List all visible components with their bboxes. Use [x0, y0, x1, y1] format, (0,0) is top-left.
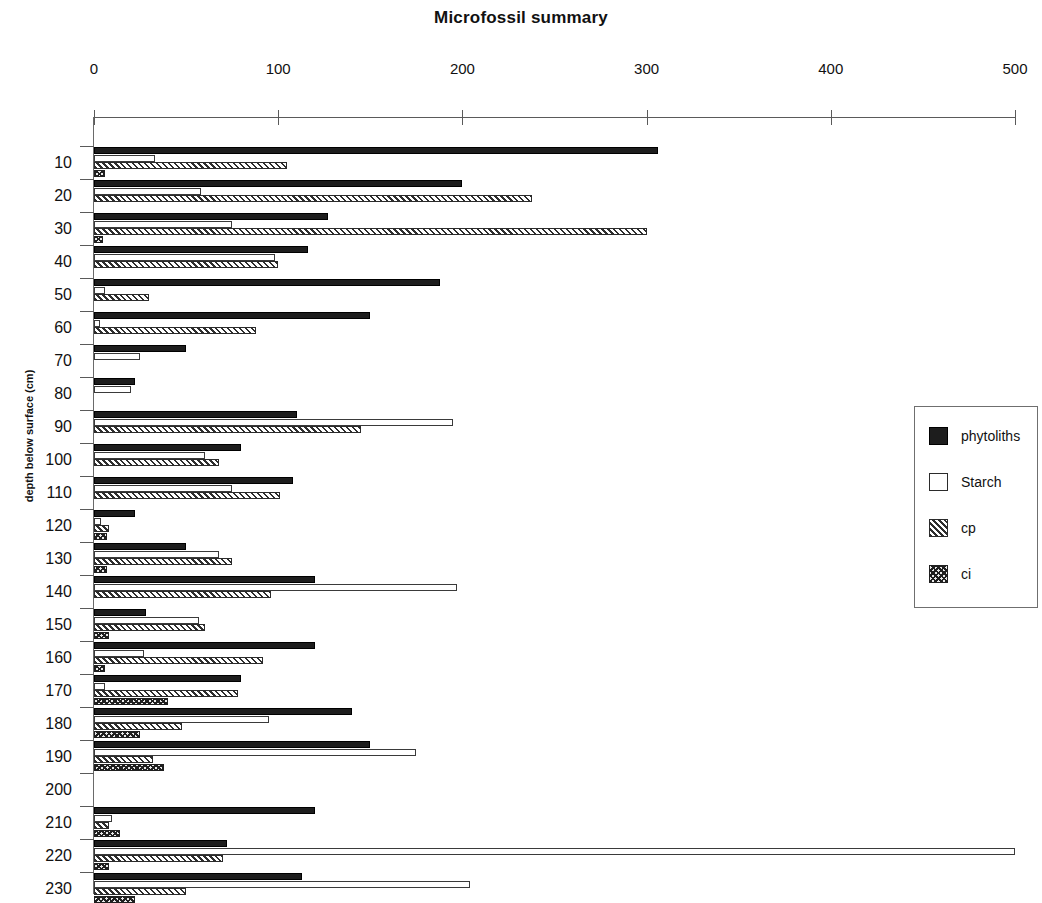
bar-ci [94, 533, 107, 540]
bar-cp [94, 558, 232, 565]
legend-swatch-icon [929, 427, 948, 445]
y-axis-tick-label: 10 [0, 154, 72, 172]
y-axis-tick [80, 575, 94, 576]
y-axis-tick-label: 100 [0, 451, 72, 469]
legend-item-label: Starch [961, 474, 1001, 490]
bar-starch [94, 518, 101, 525]
bar-starch [94, 551, 219, 558]
legend-item-starch[interactable]: Starch [929, 471, 1001, 493]
bar-starch [94, 287, 105, 294]
legend-item-label: cp [961, 520, 976, 536]
y-axis-tick-label: 120 [0, 517, 72, 535]
bar-phytoliths [94, 279, 440, 286]
y-axis-tick-label: 230 [0, 880, 72, 898]
y-axis-tick-label: 70 [0, 352, 72, 370]
legend-swatch-icon [929, 565, 948, 583]
bar-starch [94, 584, 457, 591]
y-axis-tick [80, 707, 94, 708]
y-axis-tick [80, 179, 94, 180]
bar-phytoliths [94, 345, 186, 352]
y-axis-tick-label: 220 [0, 847, 72, 865]
bar-ci [94, 170, 105, 177]
legend-item-phytoliths[interactable]: phytoliths [929, 425, 1020, 447]
y-axis-tick-label: 60 [0, 319, 72, 337]
y-axis-tick [80, 839, 94, 840]
bar-phytoliths [94, 873, 302, 880]
bar-starch [94, 848, 1015, 855]
y-axis-tick-label: 180 [0, 715, 72, 733]
x-axis-tick-label: 300 [634, 60, 659, 77]
bar-cp [94, 459, 219, 466]
bar-phytoliths [94, 510, 135, 517]
y-axis-tick [80, 542, 94, 543]
bar-cp [94, 888, 186, 895]
x-axis-line [94, 117, 1015, 118]
bar-starch [94, 617, 199, 624]
bar-phytoliths [94, 708, 352, 715]
bar-phytoliths [94, 246, 308, 253]
y-axis-tick [80, 146, 94, 147]
bar-phytoliths [94, 840, 227, 847]
bar-phytoliths [94, 378, 135, 385]
bar-cp [94, 195, 532, 202]
y-axis-tick-label: 90 [0, 418, 72, 436]
bar-phytoliths [94, 543, 186, 550]
x-axis-tick-label: 100 [266, 60, 291, 77]
bar-phytoliths [94, 807, 315, 814]
y-axis-tick [80, 674, 94, 675]
y-axis-tick [80, 509, 94, 510]
x-axis-tick [647, 110, 648, 125]
bar-ci [94, 632, 109, 639]
bar-ci [94, 896, 135, 903]
y-axis-tick-label: 200 [0, 781, 72, 799]
bar-ci [94, 236, 103, 243]
bar-cp [94, 492, 280, 499]
y-axis-tick [80, 311, 94, 312]
legend-item-ci[interactable]: ci [929, 563, 971, 585]
bar-phytoliths [94, 411, 297, 418]
bar-ci [94, 566, 107, 573]
bar-cp [94, 657, 263, 664]
bar-cp [94, 525, 109, 532]
y-axis-tick-label: 210 [0, 814, 72, 832]
legend-item-cp[interactable]: cp [929, 517, 976, 539]
bar-cp [94, 723, 182, 730]
legend-item-label: ci [961, 566, 971, 582]
y-axis-tick [80, 806, 94, 807]
y-axis-tick-label: 30 [0, 220, 72, 238]
y-axis-tick [80, 773, 94, 774]
y-axis-tick [80, 476, 94, 477]
x-axis-tick-label: 500 [1002, 60, 1027, 77]
bar-cp [94, 228, 647, 235]
bar-phytoliths [94, 180, 462, 187]
bar-phytoliths [94, 642, 315, 649]
bar-starch [94, 881, 470, 888]
y-axis-tick [80, 740, 94, 741]
y-axis-tick [80, 245, 94, 246]
bar-starch [94, 155, 155, 162]
legend-item-label: phytoliths [961, 428, 1020, 444]
bar-cp [94, 294, 149, 301]
x-axis-tick-label: 200 [450, 60, 475, 77]
y-axis-tick [80, 377, 94, 378]
bar-ci [94, 698, 168, 705]
bar-starch [94, 485, 232, 492]
x-axis-tick [94, 110, 95, 125]
bar-starch [94, 815, 112, 822]
bar-cp [94, 591, 271, 598]
bar-ci [94, 731, 140, 738]
y-axis-tick [80, 608, 94, 609]
y-axis-tick-label: 160 [0, 649, 72, 667]
bar-starch [94, 716, 269, 723]
y-axis-tick [80, 410, 94, 411]
y-axis-tick-label: 80 [0, 385, 72, 403]
x-axis-tick [278, 110, 279, 125]
y-axis-tick-label: 140 [0, 583, 72, 601]
bar-ci [94, 665, 105, 672]
bar-phytoliths [94, 213, 328, 220]
x-axis-tick [462, 110, 463, 125]
x-axis-tick-label: 400 [818, 60, 843, 77]
y-axis-tick [80, 641, 94, 642]
bar-phytoliths [94, 609, 146, 616]
